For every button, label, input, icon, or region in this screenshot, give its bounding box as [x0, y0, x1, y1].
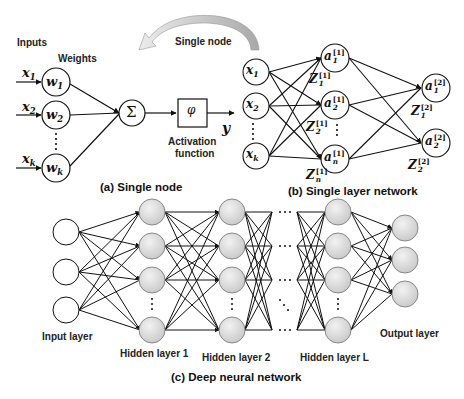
input-layer-label: Input layer — [42, 331, 93, 342]
output-y: y — [222, 121, 230, 135]
activation-symbol: φ — [187, 104, 195, 116]
b-input-xk: xk — [246, 148, 259, 163]
output-layer-label: Output layer — [380, 328, 439, 339]
caption-b: (b) Single layer network — [288, 185, 418, 197]
panel-c-deep-network — [53, 199, 418, 343]
caption-a: (a) Single node — [100, 181, 182, 193]
hidden-a2: a[1]2 — [324, 96, 345, 111]
input-xk: xk — [22, 152, 36, 167]
output-z1: Z[2]1 — [411, 104, 433, 119]
output-z2: Z[2]2 — [408, 158, 430, 173]
sum-symbol: Σ — [126, 105, 137, 120]
b-input-x1: x1 — [246, 64, 259, 79]
hidden-z1: Z[1]1 — [309, 72, 331, 87]
weight-w1: w1 — [46, 75, 63, 90]
weight-wk: wk — [46, 161, 63, 176]
output-a1: a[2]1 — [425, 79, 446, 94]
activation-label-line2: function — [175, 148, 214, 159]
hidden-zn: Z[1]n — [306, 168, 328, 183]
hidden-an: a[1]n — [324, 150, 345, 165]
hidden-z2: Z[1]2 — [306, 120, 328, 135]
neural-network-diagram: Inputs Weights x1 x2 xk w1 w2 wk Σ φ y A… — [0, 0, 464, 399]
output-a2: a[2]2 — [425, 134, 446, 149]
weight-w2: w2 — [46, 108, 63, 123]
hidden-layer-2-label: Hidden layer 2 — [202, 352, 270, 363]
inputs-label: Inputs — [17, 37, 47, 48]
input-x1: x1 — [22, 66, 36, 81]
weights-label: Weights — [58, 53, 97, 64]
b-input-x2: x2 — [246, 98, 259, 113]
hidden-a1: a[1]1 — [324, 49, 345, 64]
input-x2: x2 — [22, 100, 36, 115]
hidden-layer-L-label: Hidden layer L — [300, 352, 369, 363]
activation-label-line1: Activation — [168, 136, 216, 147]
caption-c: (c) Deep neural network — [171, 371, 301, 383]
hidden-layer-1-label: Hidden layer 1 — [120, 348, 188, 359]
curved-arrow-label: Single node — [175, 36, 232, 47]
